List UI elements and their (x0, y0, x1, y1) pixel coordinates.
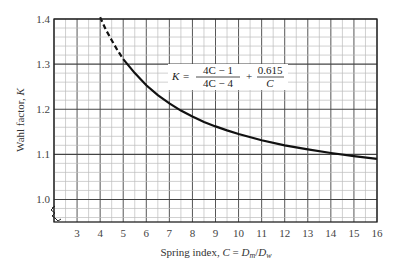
y-axis-label-var: K (14, 87, 26, 96)
x-axis-label-eq: = (230, 246, 242, 258)
x-tick-label: 5 (120, 227, 126, 239)
x-tick-label: 8 (190, 227, 196, 239)
x-axis-label-text: Spring index, (160, 246, 222, 258)
y-axis-label: Wahl factor, K (14, 87, 26, 151)
x-axis-label-den: D (257, 246, 266, 258)
formula-eq: = (183, 70, 189, 82)
x-axis-label-num: D (241, 246, 250, 258)
x-tick-label: 10 (233, 227, 245, 239)
x-axis-label: Spring index, C = Dm/Dw (160, 246, 272, 260)
y-tick-label: 1.0 (36, 193, 50, 205)
grid (54, 19, 377, 222)
x-tick-labels: 345678910111213141516 (74, 227, 383, 239)
x-tick-label: 14 (325, 227, 337, 239)
wahl-factor-chart: 1.01.11.21.31.4 345678910111213141516 K … (0, 0, 402, 270)
formula-annotation: K = 4C − 1 4C − 4 + 0.615 C (168, 64, 288, 90)
x-tick-label: 16 (372, 227, 384, 239)
y-tick-labels: 1.01.11.21.31.4 (36, 13, 50, 205)
y-tick-label: 1.1 (36, 148, 50, 160)
x-tick-label: 7 (167, 227, 173, 239)
formula-frac1-num: 4C − 1 (203, 64, 233, 76)
y-tick-label: 1.3 (36, 58, 50, 70)
x-tick-label: 13 (302, 227, 314, 239)
formula-lhs: K (171, 70, 180, 82)
x-tick-label: 12 (279, 227, 290, 239)
x-tick-label: 3 (74, 227, 80, 239)
x-tick-label: 9 (213, 227, 219, 239)
x-tick-label: 6 (144, 227, 150, 239)
y-tick-label: 1.4 (36, 13, 50, 25)
formula-frac2-den: C (266, 77, 274, 89)
y-tick-label: 1.2 (36, 103, 50, 115)
formula-frac2-num: 0.615 (258, 64, 283, 76)
formula-frac1-den: 4C − 4 (203, 77, 234, 89)
x-axis-label-den-sub: w (266, 251, 272, 260)
x-tick-label: 4 (97, 227, 103, 239)
x-tick-label: 11 (256, 227, 267, 239)
formula-plus: + (246, 70, 252, 82)
y-axis-label-text: Wahl factor, (14, 95, 26, 151)
x-tick-label: 15 (348, 227, 360, 239)
